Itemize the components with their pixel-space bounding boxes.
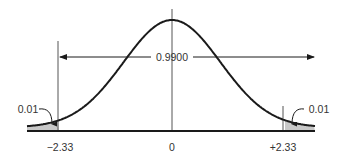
right-tail-callout-icon (292, 109, 304, 124)
tick-label-mean: 0 (169, 142, 175, 153)
left-tail-callout-icon (39, 109, 52, 124)
tick-label-upper: +2.33 (270, 142, 297, 153)
right-tail-label: 0.01 (309, 104, 329, 115)
left-tail-label: 0.01 (18, 104, 38, 115)
tick-label-lower: −2.33 (47, 142, 74, 153)
normal-curve (27, 20, 315, 126)
center-area-label: 0.9900 (156, 52, 188, 63)
